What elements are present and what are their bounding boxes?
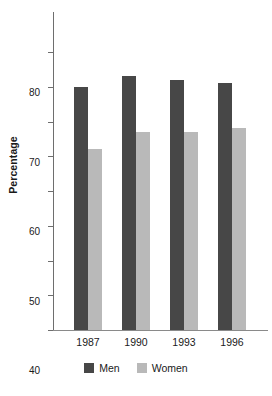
y-axis-tick-mark: 10 (48, 295, 53, 296)
y-axis-line (53, 12, 54, 330)
y-axis-title: Percentage (0, 0, 26, 330)
bar-men-1993 (170, 80, 184, 330)
y-axis-tick-mark: 30 (48, 226, 53, 227)
y-axis-tick-mark: 0 (48, 330, 53, 331)
y-axis-tick-mark: 40 (48, 191, 53, 192)
x-axis-line (53, 330, 268, 331)
bar-men-1990 (122, 76, 136, 330)
y-axis-tick-mark: 60 (48, 122, 53, 123)
bar-women-1996 (232, 128, 246, 330)
legend-entry-women[interactable]: Women (137, 362, 188, 374)
y-axis-tick-mark: 70 (48, 87, 53, 88)
legend-entry-men[interactable]: Men (84, 362, 119, 374)
x-axis-tick-label-1990: 1990 (124, 336, 147, 348)
legend-label-men: Men (99, 362, 119, 374)
y-axis-tick-label: 50 (29, 295, 40, 306)
y-axis-tick-mark: 80 (48, 52, 53, 53)
x-axis-tick-label-1993: 1993 (172, 336, 195, 348)
plot-area: 01020304050607080 1987199019931996 (53, 12, 272, 330)
y-axis-tick-mark: 50 (48, 156, 53, 157)
bar-women-1987 (88, 149, 102, 330)
bar-women-1990 (136, 132, 150, 330)
chart-legend: MenWomen (0, 362, 272, 374)
y-axis-tick-mark: 20 (48, 261, 53, 262)
bar-chart-figure: Percentage 01020304050607080 19871990199… (0, 0, 272, 396)
legend-swatch-men (84, 363, 94, 373)
y-axis-tick-label: 60 (29, 226, 40, 237)
x-axis-tick-label-1987: 1987 (76, 336, 99, 348)
x-axis-tick-label-1996: 1996 (220, 336, 243, 348)
bar-men-1987 (74, 87, 88, 330)
bar-men-1996 (218, 83, 232, 330)
y-axis-tick-label: 70 (29, 156, 40, 167)
legend-label-women: Women (152, 362, 188, 374)
bar-women-1993 (184, 132, 198, 330)
legend-swatch-women (137, 363, 147, 373)
y-axis-tick-label: 80 (29, 87, 40, 98)
y-axis-title-label: Percentage (7, 136, 19, 194)
